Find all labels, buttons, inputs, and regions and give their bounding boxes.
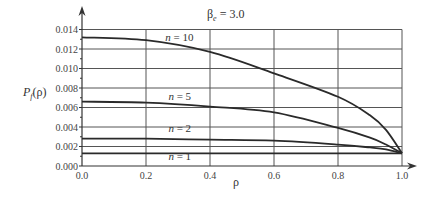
y-tick-label: 0.006 xyxy=(56,102,79,113)
y-tick-label: 0.010 xyxy=(56,63,79,74)
y-tick-label: 0.004 xyxy=(56,122,79,133)
y-tick-label: 0.012 xyxy=(56,44,79,55)
series-label: n = 10 xyxy=(165,31,194,43)
series-label: n = 2 xyxy=(168,122,191,134)
series-curve-2 xyxy=(82,139,402,154)
x-axis-label: ρ xyxy=(233,175,239,189)
series-curve-0 xyxy=(82,37,402,153)
x-tick-label: 1.0 xyxy=(396,170,409,181)
x-tick-label: 0.4 xyxy=(204,170,217,181)
y-tick-label: 0.008 xyxy=(56,83,79,94)
series-curves xyxy=(82,37,402,153)
series-labels: n = 10n = 5n = 2n = 1 xyxy=(165,31,194,162)
y-tick-label: 0.014 xyxy=(56,24,79,35)
series-label: n = 5 xyxy=(168,90,191,102)
x-tick-label: 0.2 xyxy=(140,170,153,181)
x-tick-label: 0.8 xyxy=(332,170,345,181)
x-tick-label: 0.6 xyxy=(268,170,281,181)
series-label: n = 1 xyxy=(168,150,191,162)
chart: 0.0000.0020.0040.0060.0080.0100.0120.014… xyxy=(0,0,437,200)
y-tick-label: 0.000 xyxy=(56,161,79,172)
y-axis-label: Pf(ρ) xyxy=(22,85,47,101)
y-tick-label: 0.002 xyxy=(56,141,79,152)
x-tick-label: 0.0 xyxy=(76,170,89,181)
chart-title: βe = 3.0 xyxy=(207,7,244,23)
